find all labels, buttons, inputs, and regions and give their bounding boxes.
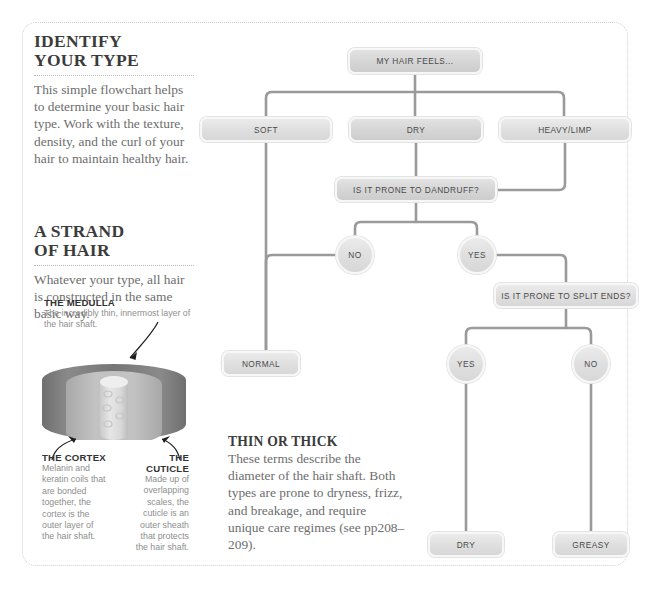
flow-node-label: NORMAL: [242, 359, 280, 369]
flow-node-label: NO: [584, 359, 597, 369]
flow-node-label: DRY: [407, 125, 426, 135]
flow-node-no1[interactable]: NO: [336, 236, 374, 274]
flow-node-soft[interactable]: SOFT: [200, 117, 332, 142]
flow-node-label: MY HAIR FEELS...: [376, 56, 453, 66]
flow-node-label: YES: [468, 250, 486, 260]
flow-node-dry1[interactable]: DRY: [349, 117, 483, 142]
flow-node-dry2[interactable]: DRY: [428, 532, 504, 557]
flow-node-greasy[interactable]: GREASY: [553, 532, 629, 557]
flow-node-heavy[interactable]: HEAVY/LIMP: [499, 117, 631, 142]
flow-node-label: SOFT: [254, 125, 278, 135]
flow-node-dandruff[interactable]: IS IT PRONE TO DANDRUFF?: [335, 177, 497, 202]
flow-node-label: DRY: [457, 540, 476, 550]
flow-node-yes2[interactable]: YES: [447, 345, 485, 383]
flow-node-split[interactable]: IS IT PRONE TO SPLIT ENDS?: [494, 283, 638, 308]
flow-node-root[interactable]: MY HAIR FEELS...: [348, 48, 482, 74]
flow-node-label: YES: [457, 359, 475, 369]
flow-node-yes1[interactable]: YES: [458, 236, 496, 274]
infographic-page: IDENTIFY YOUR TYPE This simple flowchart…: [0, 0, 652, 590]
flow-node-normal[interactable]: NORMAL: [222, 351, 300, 376]
flow-node-label: IS IT PRONE TO DANDRUFF?: [353, 185, 479, 195]
flow-node-no2[interactable]: NO: [572, 345, 610, 383]
flow-node-label: GREASY: [572, 540, 609, 550]
flow-node-label: NO: [348, 250, 361, 260]
flow-node-label: IS IT PRONE TO SPLIT ENDS?: [501, 291, 631, 301]
flow-node-label: HEAVY/LIMP: [538, 125, 592, 135]
